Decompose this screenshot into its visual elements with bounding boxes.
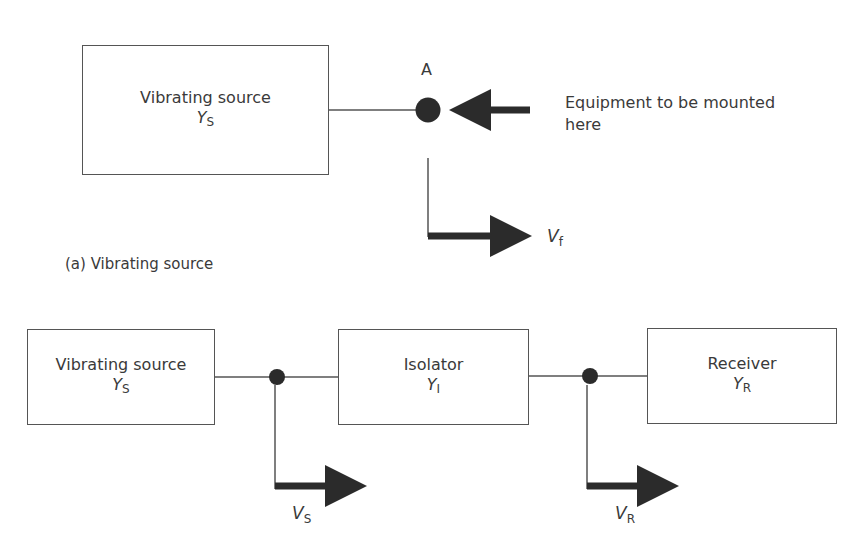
point-a-label: A bbox=[421, 60, 432, 79]
vibrating-source-box-a: Vibrating source YS bbox=[82, 45, 329, 175]
vf-label: Vf bbox=[547, 226, 563, 249]
equipment-note: Equipment to be mounted here bbox=[565, 92, 775, 136]
vr-label: VR bbox=[615, 503, 635, 526]
source-junction-dot bbox=[269, 369, 285, 385]
receiver-box: Receiver YR bbox=[647, 328, 837, 424]
vs-label: VS bbox=[292, 503, 311, 526]
box-title: Vibrating source bbox=[140, 88, 271, 108]
receiver-junction-dot bbox=[582, 368, 598, 384]
point-a-dot bbox=[416, 98, 441, 123]
caption-a: (a) Vibrating source bbox=[65, 255, 213, 273]
isolator-box: Isolator YI bbox=[338, 329, 529, 425]
box-symbol: YS bbox=[197, 108, 214, 132]
vibrating-source-box-b: Vibrating source YS bbox=[27, 329, 215, 425]
